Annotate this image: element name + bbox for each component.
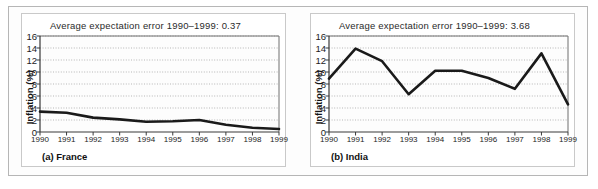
x-tick-label: 1993 bbox=[400, 135, 418, 144]
x-tick-label: 1997 bbox=[217, 135, 235, 144]
figure-frame: Average expectation error 1990–1999: 0.3… bbox=[8, 6, 588, 176]
y-tick-label: 14 bbox=[26, 43, 37, 54]
x-tick-label: 1995 bbox=[164, 135, 182, 144]
x-tick-label: 1998 bbox=[533, 135, 551, 144]
x-tick-label: 1990 bbox=[31, 135, 49, 144]
x-tick-label: 1992 bbox=[373, 135, 391, 144]
panel-caption-france: (a) France bbox=[42, 151, 87, 162]
panel-caption-india: (b) India bbox=[331, 151, 368, 162]
x-tick-label: 1994 bbox=[137, 135, 155, 144]
y-tick-label: 10 bbox=[315, 67, 326, 78]
y-tick-label: 8 bbox=[32, 79, 37, 90]
x-tick-label: 1991 bbox=[58, 135, 76, 144]
plot-area-india: 0246810121416199019911992199319941995199… bbox=[329, 36, 568, 132]
panel-border-india: Average expectation error 1990–1999: 3.6… bbox=[310, 13, 575, 167]
y-tick-label: 12 bbox=[26, 55, 37, 66]
x-tick-label: 1996 bbox=[479, 135, 497, 144]
chart-svg bbox=[329, 36, 568, 132]
y-tick-label: 8 bbox=[321, 79, 326, 90]
x-tick-label: 1991 bbox=[347, 135, 365, 144]
x-tick-label: 1998 bbox=[244, 135, 262, 144]
y-tick-label: 2 bbox=[32, 115, 37, 126]
y-tick-label: 12 bbox=[315, 55, 326, 66]
y-tick-label: 6 bbox=[321, 91, 326, 102]
x-tick-label: 1997 bbox=[506, 135, 524, 144]
panel-border-france: Average expectation error 1990–1999: 0.3… bbox=[21, 13, 286, 167]
x-tick-label: 1992 bbox=[84, 135, 102, 144]
y-tick-label: 4 bbox=[32, 103, 37, 114]
chart-svg bbox=[40, 36, 279, 132]
x-tick-label: 1999 bbox=[270, 135, 288, 144]
chart-title-india: Average expectation error 1990–1999: 3.6… bbox=[339, 20, 570, 31]
chart-panels: Average expectation error 1990–1999: 0.3… bbox=[9, 7, 587, 175]
x-tick-label: 1995 bbox=[453, 135, 471, 144]
chart-panel-india: Average expectation error 1990–1999: 3.6… bbox=[298, 7, 587, 175]
x-tick-label: 1993 bbox=[111, 135, 129, 144]
x-tick-label: 1996 bbox=[190, 135, 208, 144]
chart-panel-france: Average expectation error 1990–1999: 0.3… bbox=[9, 7, 298, 175]
y-tick-label: 14 bbox=[315, 43, 326, 54]
y-tick-label: 4 bbox=[321, 103, 326, 114]
x-tick-label: 1990 bbox=[320, 135, 338, 144]
x-tick-label: 1999 bbox=[559, 135, 577, 144]
x-tick-label: 1994 bbox=[426, 135, 444, 144]
y-tick-label: 16 bbox=[26, 31, 37, 42]
y-tick-label: 6 bbox=[32, 91, 37, 102]
y-tick-label: 16 bbox=[315, 31, 326, 42]
y-tick-label: 10 bbox=[26, 67, 37, 78]
chart-title-france: Average expectation error 1990–1999: 0.3… bbox=[50, 20, 281, 31]
plot-area-france: 0246810121416199019911992199319941995199… bbox=[40, 36, 279, 132]
y-tick-label: 2 bbox=[321, 115, 326, 126]
